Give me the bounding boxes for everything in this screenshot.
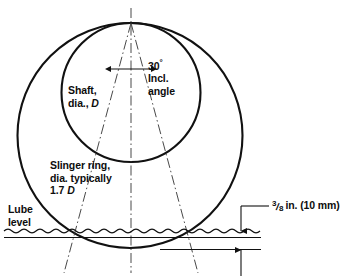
slinger-label-line3: 1.7 D (50, 184, 112, 197)
slinger-ring-circle (18, 23, 243, 248)
shaft-dia-text: dia., (68, 97, 91, 109)
lube-label-line2: level (8, 216, 33, 229)
slinger-label-line1: Slinger ring, (50, 159, 110, 171)
label-slinger-ring: Slinger ring, dia. typically 1.7 D (50, 159, 112, 197)
angle-label-line2: Incl. (148, 72, 175, 85)
lube-label-line1: Lube (8, 203, 33, 215)
lube-level-wavy-line (4, 229, 260, 233)
angle-label-line3: angle (148, 85, 175, 98)
shaft-label-line2: dia., D (68, 97, 99, 110)
label-inclination-angle: 30° Incl. angle (148, 57, 175, 97)
shaft-dia-symbol: D (91, 97, 98, 109)
fraction-three-eighths: 3/8 (272, 201, 283, 214)
label-clearance-dimension: 3/8 in. (10 mm) (272, 199, 340, 214)
angle-line-left (64, 23, 131, 273)
slinger-label-line2: dia. typically (50, 172, 112, 185)
dimension-unit-text: in. (10 mm) (285, 199, 339, 212)
fraction-denominator: 8 (279, 203, 283, 216)
label-lube-level: Lube level (8, 203, 33, 228)
label-shaft: Shaft, dia., D (68, 84, 99, 109)
degree-symbol: ° (159, 58, 162, 67)
shaft-label-line1: Shaft, (68, 84, 97, 96)
slinger-factor: 1.7 (50, 184, 67, 196)
technical-diagram: 30° Incl. angle Shaft, dia., D Slinger r… (0, 0, 341, 280)
diagram-canvas (0, 0, 341, 280)
slinger-dia-symbol: D (67, 184, 74, 196)
angle-value: 30 (148, 60, 159, 72)
